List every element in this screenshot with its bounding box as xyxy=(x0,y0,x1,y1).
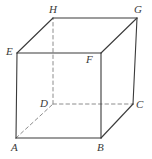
vertex-label-h: H xyxy=(49,4,57,15)
edge-B-C xyxy=(101,104,133,138)
vertex-label-d: D xyxy=(40,98,48,109)
visible-edge-group xyxy=(16,18,137,138)
vertex-label-e: E xyxy=(6,46,13,57)
edge-C-G xyxy=(133,18,137,104)
vertex-label-b: B xyxy=(97,142,104,153)
edge-A-D xyxy=(16,104,53,138)
vertex-label-c: C xyxy=(136,99,143,110)
edge-F-G xyxy=(101,18,137,53)
vertex-label-a: A xyxy=(11,142,18,153)
vertex-label-f: F xyxy=(86,54,93,65)
cube-svg xyxy=(0,0,152,159)
edge-E-H xyxy=(17,18,53,53)
hidden-edge-group xyxy=(16,18,133,138)
cube-figure: ABCDEFGH xyxy=(0,0,152,159)
edge-A-E xyxy=(16,53,17,138)
vertex-label-g: G xyxy=(134,4,142,15)
